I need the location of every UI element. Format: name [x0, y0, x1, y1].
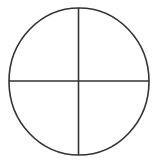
quadrant-circle-diagram [0, 0, 160, 164]
